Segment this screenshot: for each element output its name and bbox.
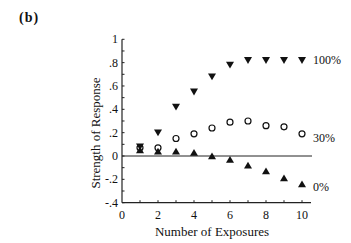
x-tick-label: 10 (296, 208, 308, 222)
circle-marker (227, 119, 233, 125)
y-tick-label: -.4 (105, 196, 118, 210)
up-triangle-marker (262, 168, 270, 175)
x-tick-label: 6 (227, 208, 233, 222)
series-label-100pct: 100% (313, 53, 341, 67)
up-triangle-marker (172, 148, 180, 155)
scatter-chart: -.4-.20.2.4.6.810246810Number of Exposur… (0, 0, 351, 243)
down-triangle-marker (190, 89, 198, 96)
axes: -.4-.20.2.4.6.810246810Number of Exposur… (88, 32, 312, 238)
down-triangle-marker (298, 57, 306, 64)
circle-marker (173, 135, 179, 141)
x-axis-title: Number of Exposures (155, 224, 269, 239)
y-tick-label: 0 (112, 149, 118, 163)
up-triangle-marker (244, 162, 252, 169)
y-tick-label: 1 (112, 32, 118, 46)
x-tick-label: 2 (155, 208, 161, 222)
circle-marker (263, 123, 269, 129)
down-triangle-marker (172, 104, 180, 111)
y-tick-label: -.2 (105, 172, 118, 186)
up-triangle-marker (298, 180, 306, 187)
series-label-0pct: 0% (313, 180, 329, 194)
series-label-30pct: 30% (313, 131, 335, 145)
y-tick-label: .2 (109, 126, 118, 140)
down-triangle-marker (262, 57, 270, 64)
down-triangle-marker (208, 73, 216, 80)
y-tick-label: .6 (109, 79, 118, 93)
circle-marker (209, 125, 215, 131)
circle-marker (299, 131, 305, 137)
down-triangle-marker (154, 129, 162, 136)
up-triangle-marker (190, 149, 198, 156)
data-points (136, 57, 306, 187)
circle-marker (191, 131, 197, 137)
y-axis-title: Strength of Response (88, 77, 103, 188)
circle-marker (245, 118, 251, 124)
series-labels: 100%30%0% (313, 53, 341, 194)
up-triangle-marker (280, 175, 288, 182)
down-triangle-marker (244, 57, 252, 64)
x-tick-label: 4 (191, 208, 197, 222)
down-triangle-marker (280, 57, 288, 64)
circle-marker (281, 124, 287, 130)
down-triangle-marker (226, 62, 234, 69)
x-tick-label: 0 (119, 208, 125, 222)
y-tick-label: .4 (109, 102, 118, 116)
up-triangle-marker (226, 156, 234, 163)
y-tick-label: .8 (109, 56, 118, 70)
x-tick-label: 8 (263, 208, 269, 222)
